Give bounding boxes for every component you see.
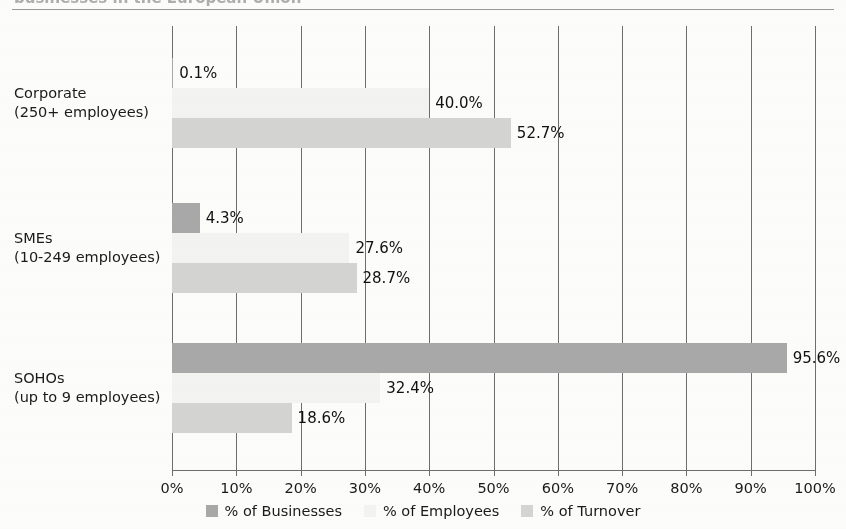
bar xyxy=(172,233,349,263)
bar xyxy=(172,343,787,373)
legend-swatch-icon xyxy=(206,505,218,517)
x-tick-label: 30% xyxy=(349,480,381,496)
bar-value-label: 32.4% xyxy=(386,373,434,403)
x-tick-label: 80% xyxy=(670,480,702,496)
x-tick-70 xyxy=(622,470,623,476)
legend-label: % of Employees xyxy=(383,503,499,519)
x-tick-label: 40% xyxy=(413,480,445,496)
cut-off-title-text: businesses in the European Union xyxy=(14,0,301,7)
x-tick-30 xyxy=(365,470,366,476)
x-tick-label: 70% xyxy=(606,480,638,496)
bar-value-label: 95.6% xyxy=(793,343,841,373)
legend-label: % of Businesses xyxy=(225,503,342,519)
x-tick-60 xyxy=(558,470,559,476)
bar-value-label: 40.0% xyxy=(435,88,483,118)
category-label-line: (250+ employees) xyxy=(14,103,149,122)
x-tick-0 xyxy=(172,470,173,476)
bar xyxy=(172,58,173,88)
bar xyxy=(172,203,200,233)
category-label-line: SMEs xyxy=(14,229,160,248)
x-tick-label: 50% xyxy=(477,480,509,496)
bar xyxy=(172,263,357,293)
gridline-100 xyxy=(815,26,816,470)
gridline-70 xyxy=(622,26,623,470)
bar-value-label: 0.1% xyxy=(179,58,217,88)
x-tick-100 xyxy=(815,470,816,476)
plot-area: 0.1%40.0%52.7%4.3%27.6%28.7%95.6%32.4%18… xyxy=(172,26,815,470)
x-tick-label: 100% xyxy=(794,480,835,496)
x-tick-label: 60% xyxy=(542,480,574,496)
bar-value-label: 27.6% xyxy=(355,233,403,263)
category-label-line: Corporate xyxy=(14,84,149,103)
bar-value-label: 18.6% xyxy=(298,403,346,433)
category-label: SOHOs(up to 9 employees) xyxy=(14,369,160,407)
bar-value-label: 28.7% xyxy=(363,263,411,293)
bar xyxy=(172,373,380,403)
x-tick-label: 10% xyxy=(220,480,252,496)
chart-page: businesses in the European Union 0.1%40.… xyxy=(0,0,846,529)
category-label: Corporate(250+ employees) xyxy=(14,84,149,122)
category-label-line: SOHOs xyxy=(14,369,160,388)
gridline-80 xyxy=(686,26,687,470)
legend-label: % of Turnover xyxy=(540,503,640,519)
x-tick-label: 20% xyxy=(284,480,316,496)
category-label: SMEs(10-249 employees) xyxy=(14,229,160,267)
legend-swatch-icon xyxy=(364,505,376,517)
chart-legend: % of Businesses% of Employees% of Turnov… xyxy=(0,503,846,519)
cut-off-header: businesses in the European Union xyxy=(0,0,846,9)
bar-value-label: 4.3% xyxy=(206,203,244,233)
x-tick-90 xyxy=(751,470,752,476)
x-tick-10 xyxy=(236,470,237,476)
bar-value-label: 52.7% xyxy=(517,118,565,148)
x-tick-50 xyxy=(494,470,495,476)
x-tick-20 xyxy=(301,470,302,476)
legend-item[interactable]: % of Businesses xyxy=(206,503,342,519)
category-label-line: (10-249 employees) xyxy=(14,248,160,267)
legend-swatch-icon xyxy=(521,505,533,517)
x-tick-80 xyxy=(686,470,687,476)
header-divider-rule xyxy=(12,9,834,10)
x-tick-label: 90% xyxy=(735,480,767,496)
gridline-40 xyxy=(429,26,430,470)
gridline-50 xyxy=(494,26,495,470)
legend-item[interactable]: % of Employees xyxy=(364,503,499,519)
legend-item[interactable]: % of Turnover xyxy=(521,503,640,519)
x-tick-label: 0% xyxy=(160,480,183,496)
x-tick-40 xyxy=(429,470,430,476)
bar xyxy=(172,403,292,433)
gridline-60 xyxy=(558,26,559,470)
gridline-90 xyxy=(751,26,752,470)
bar xyxy=(172,88,429,118)
bar xyxy=(172,118,511,148)
category-label-line: (up to 9 employees) xyxy=(14,388,160,407)
